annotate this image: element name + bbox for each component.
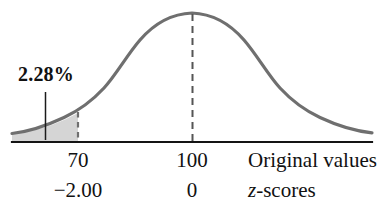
tail-area-percent-label: 2.28% (18, 64, 74, 84)
z-tick-label-negative-two: −2.00 (54, 180, 103, 201)
z-tick-label-zero: 0 (187, 180, 198, 201)
normal-distribution-figure: 2.28% 70 100 Original values −2.00 0 z-s… (0, 0, 380, 210)
x-tick-label-70: 70 (68, 150, 89, 171)
axis-row-label-z-scores: z-scores (248, 180, 316, 201)
z-symbol: z (248, 178, 256, 202)
z-scores-suffix: -scores (256, 178, 315, 202)
axis-row-label-original-values: Original values (248, 150, 377, 171)
x-tick-label-100: 100 (176, 150, 208, 171)
